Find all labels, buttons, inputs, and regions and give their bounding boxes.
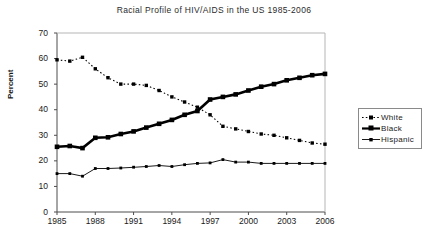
data-point-black-1999	[233, 92, 238, 97]
data-point-black-2001	[259, 84, 264, 89]
data-point-white-2006	[323, 143, 326, 146]
data-point-white-1998	[221, 125, 224, 128]
data-point-hispanic-2002	[273, 162, 276, 165]
series-line-white	[57, 57, 325, 144]
legend-item-white: White	[361, 112, 419, 123]
data-point-black-1993	[157, 122, 162, 127]
data-point-hispanic-1990	[119, 167, 122, 170]
data-point-black-1988	[93, 136, 98, 141]
legend-item-black: Black	[361, 123, 419, 134]
data-point-black-2000	[246, 88, 251, 93]
data-point-black-1985	[55, 145, 60, 150]
data-point-hispanic-1998	[222, 158, 225, 161]
data-point-black-2002	[272, 82, 277, 87]
data-series-group	[55, 56, 328, 178]
data-point-white-2001	[260, 132, 263, 135]
data-point-black-2003	[284, 78, 289, 83]
data-point-hispanic-1987	[81, 175, 84, 178]
data-point-black-1992	[144, 125, 149, 130]
data-point-white-1993	[157, 89, 160, 92]
data-point-hispanic-2006	[324, 162, 327, 165]
data-point-hispanic-1994	[171, 165, 174, 168]
data-point-white-2000	[247, 130, 250, 133]
data-point-black-1995	[182, 113, 187, 118]
data-point-white-1990	[119, 82, 122, 85]
data-point-white-2002	[272, 134, 275, 137]
data-point-hispanic-1996	[196, 162, 199, 165]
data-point-hispanic-1986	[68, 172, 71, 175]
data-point-hispanic-1988	[94, 167, 97, 170]
legend-label-white: White	[381, 113, 403, 122]
chart-legend: White Black Hispanic	[358, 108, 422, 149]
data-point-white-1999	[234, 127, 237, 130]
legend-label-hispanic: Hispanic	[381, 135, 414, 144]
data-point-black-1989	[106, 135, 111, 140]
data-point-white-1987	[81, 56, 84, 59]
data-point-white-1985	[55, 58, 58, 61]
chart-container: Racial Profile of HIV/AIDS in the US 198…	[0, 0, 428, 239]
legend-key-black	[361, 123, 381, 134]
data-point-hispanic-1997	[209, 162, 212, 165]
axes	[54, 33, 325, 215]
data-point-white-1988	[94, 67, 97, 70]
series-line-hispanic	[57, 160, 325, 177]
data-point-white-1986	[68, 59, 71, 62]
data-point-hispanic-2004	[298, 162, 301, 165]
data-point-hispanic-1992	[145, 165, 148, 168]
data-point-black-1998	[221, 95, 226, 100]
data-point-white-1991	[132, 82, 135, 85]
data-point-black-1996	[195, 109, 200, 114]
data-point-black-2006	[323, 72, 328, 77]
data-point-hispanic-2000	[247, 161, 250, 164]
data-point-white-2003	[285, 136, 288, 139]
data-point-hispanic-1985	[56, 172, 59, 175]
data-point-white-1995	[183, 100, 186, 103]
data-point-black-1991	[131, 129, 136, 134]
data-point-white-1992	[145, 84, 148, 87]
data-point-black-1986	[68, 144, 73, 149]
legend-key-white	[361, 112, 381, 123]
data-point-hispanic-2003	[285, 162, 288, 165]
data-point-white-1989	[106, 76, 109, 79]
data-point-black-2004	[297, 76, 302, 81]
legend-label-black: Black	[381, 124, 402, 133]
data-point-white-1997	[208, 113, 211, 116]
data-point-black-1987	[80, 146, 85, 151]
data-point-hispanic-2001	[260, 162, 263, 165]
data-point-black-1997	[208, 97, 213, 102]
data-point-black-1994	[170, 118, 175, 123]
data-point-hispanic-1993	[158, 164, 161, 167]
data-point-black-2005	[310, 73, 315, 78]
data-point-hispanic-1989	[107, 167, 110, 170]
data-point-hispanic-1991	[132, 166, 135, 169]
legend-key-hispanic	[361, 134, 381, 145]
data-point-white-2004	[298, 139, 301, 142]
data-point-white-2005	[311, 141, 314, 144]
data-point-white-1994	[170, 95, 173, 98]
data-point-hispanic-1999	[234, 161, 237, 164]
data-point-hispanic-1995	[183, 163, 186, 166]
legend-item-hispanic: Hispanic	[361, 134, 419, 145]
data-point-hispanic-2005	[311, 162, 314, 165]
data-point-black-1990	[119, 132, 124, 137]
